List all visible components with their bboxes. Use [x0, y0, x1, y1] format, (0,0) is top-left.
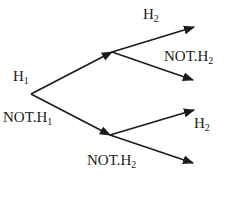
- branch-label-h1-h2-0: H2: [143, 6, 159, 24]
- branch-label-not-h1-not-h2-3: NOT.H2: [87, 152, 136, 170]
- branch-arrow-h1: [31, 52, 112, 94]
- branch-label-not-h1: NOT.H1: [3, 109, 52, 127]
- branch-label-not-h1-h2-2: H2: [194, 115, 210, 133]
- branch-arrow-not-h1-h2-2: [110, 110, 194, 135]
- branch-label-h1: H1: [13, 68, 29, 86]
- probability-tree-diagram: H1NOT.H1H2NOT.H2H2NOT.H2: [0, 0, 228, 200]
- branch-label-h1-not-h2-1: NOT.H2: [164, 48, 213, 66]
